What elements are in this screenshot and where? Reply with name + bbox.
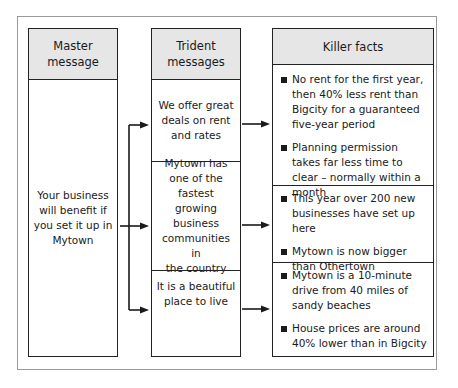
right-arrow-icon <box>261 222 270 229</box>
right-arrow-icon <box>261 121 270 128</box>
connector-arrows <box>0 0 458 388</box>
right-arrow-icon <box>140 307 149 314</box>
right-arrow-icon <box>140 223 149 230</box>
right-arrow-icon <box>140 122 149 129</box>
right-arrow-icon <box>261 306 270 313</box>
